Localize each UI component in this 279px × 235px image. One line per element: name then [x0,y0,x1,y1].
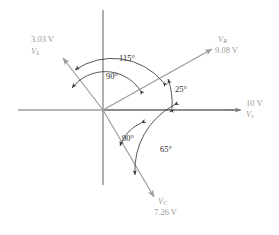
phasor-vc-line [103,110,154,197]
phasor-diagram-canvas: 3.03 V VL VR 9.08 V 10 V Vs VC 7.26 V 11… [0,0,279,235]
phasor-vs-magnitude-label: 10 V [246,98,263,108]
phasor-vc-magnitude-label: 7.26 V [154,207,177,217]
angle-label-90-upper: 90° [106,71,118,81]
phasor-vc-subscript: C [163,199,167,206]
phasor-vl-symbol-label: VL [31,46,40,58]
phasor-vs-symbol-label: Vs [246,109,254,121]
angle-label-90-lower: 90° [122,133,134,143]
phasor-vl-line [63,58,103,110]
phasor-vs-subscript: s [251,112,253,119]
phasor-vl-magnitude-label: 3.03 V [31,34,54,44]
angle-arc-25 [168,79,172,108]
angle-label-25: 25° [175,84,187,94]
phasor-vl [63,58,103,110]
phasor-vr-subscript: R [223,37,227,44]
phasor-vl-subscript: L [36,49,39,56]
phasor-vc [103,110,154,197]
angle-arc-65 [135,105,174,175]
angle-label-65: 65° [160,144,172,154]
phasor-vr-magnitude-label: 9.08 V [215,45,238,55]
angle-label-115: 115° [119,53,135,63]
